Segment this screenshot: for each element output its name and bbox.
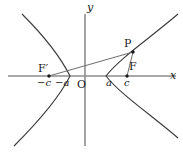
- segment-pf-prime: [49, 52, 133, 76]
- x-axis-label: x: [170, 70, 176, 81]
- origin-label: O: [77, 79, 86, 90]
- tick-label-c: c: [124, 78, 130, 88]
- tick-label-minus-a: −a: [55, 78, 69, 88]
- point-p-label: P: [124, 38, 131, 49]
- y-axis-label: y: [87, 2, 93, 13]
- focus-right-label: F: [129, 61, 137, 72]
- hyperbola-figure: x y O F′ F P −c −a a c: [0, 0, 183, 153]
- tick-label-a: a: [106, 78, 112, 88]
- figure-canvas: [0, 0, 183, 153]
- focus-left-label: F′: [38, 63, 48, 74]
- tick-label-minus-c: −c: [37, 78, 51, 88]
- point-p-dot: [131, 50, 134, 53]
